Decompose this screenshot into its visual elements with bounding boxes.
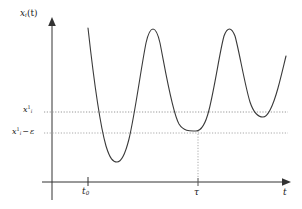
figure-container: xi(t) t t0 τ x1i x1i−ε [0,0,302,209]
signal-curve [88,28,286,162]
xtick-label-t0: t0 [82,187,89,197]
x-axis-label: t [283,188,287,197]
x-axis-arrowhead [282,178,291,186]
level-label-lower-operator: − [21,127,30,136]
x-axis-label-text: t [283,187,287,197]
level-label-lower-epsilon: ε [30,127,34,136]
xtick-label-t0-sub: 0 [86,190,90,196]
y-axis-label: xi(t) [20,9,38,19]
xtick-label-tau: τ [194,188,199,197]
level-label-upper: x1i [23,105,32,114]
y-axis-arrowhead [48,17,56,26]
y-axis-label-arg: (t) [27,8,38,18]
level-label-upper-sub: i [31,108,33,114]
plot-canvas [0,0,302,209]
level-label-lower: x1i−ε [12,127,34,136]
xtick-label-tau-text: τ [194,187,199,197]
